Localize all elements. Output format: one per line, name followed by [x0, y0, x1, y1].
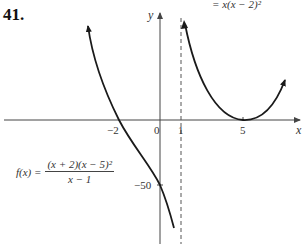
y-axis-label: y: [148, 8, 153, 23]
right-branch-curve: [185, 24, 285, 120]
top-note: = x(x − 2)²: [212, 0, 261, 10]
formula-denominator: x − 1: [68, 172, 91, 185]
right-branch-top-arrow-icon: [181, 20, 188, 29]
formula-fraction: (x + 2)(x − 5)² x − 1: [45, 158, 114, 185]
x-axis-label: x: [296, 123, 301, 138]
x-tick-label-neg2: −2: [107, 124, 119, 136]
y-tick-label-neg50: −50: [134, 179, 151, 191]
function-formula: f(x) = (x + 2)(x − 5)² x − 1: [16, 158, 114, 185]
function-plot: [0, 0, 306, 244]
problem-number: 41.: [3, 5, 24, 25]
formula-lhs: f(x) =: [16, 166, 41, 178]
x-tick-label-1: 1: [178, 124, 184, 136]
graph-figure: 41. = x(x − 2)² −2 0 1 5 −50 x y f(x) = …: [0, 0, 306, 244]
left-branch-curve: [88, 26, 174, 228]
x-tick-label-0: 0: [154, 124, 160, 136]
x-tick-label-5: 5: [240, 124, 246, 136]
formula-numerator: (x + 2)(x − 5)²: [45, 158, 114, 172]
